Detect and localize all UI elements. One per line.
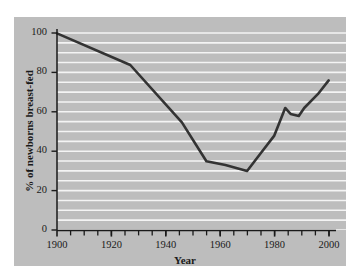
x-tick-label-1960: 1960 [200, 240, 240, 251]
gridlines [57, 33, 346, 230]
chart-plot-area [0, 0, 359, 277]
x-tick-label-1980: 1980 [255, 240, 295, 251]
y-tick-label-0: 0 [21, 224, 47, 235]
x-tick-label-1940: 1940 [146, 240, 186, 251]
figure: 100 80 60 40 20 0 1900 1920 1940 1960 19… [0, 0, 359, 277]
y-axis-title: % of newborns breast-fed [23, 51, 35, 211]
x-axis-title: Year [155, 254, 215, 266]
y-tick-label-100: 100 [21, 27, 47, 38]
y-axis-ticks [52, 33, 58, 230]
x-tick-label-1920: 1920 [91, 240, 131, 251]
x-tick-label-2000: 2000 [309, 240, 349, 251]
x-tick-label-1900: 1900 [37, 240, 77, 251]
